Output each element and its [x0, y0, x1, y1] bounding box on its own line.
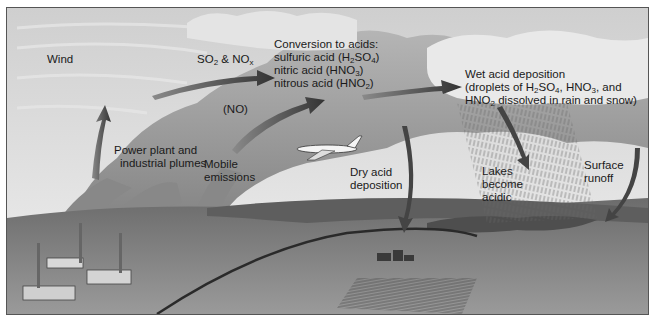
- label-so2-nox: SO2 & NOx: [197, 53, 253, 66]
- farm-field: [337, 278, 477, 314]
- acid-deposition-diagram: Wind SO2 & NOx Conversion to acids: sulf…: [6, 7, 649, 315]
- label-wind: Wind: [47, 53, 73, 66]
- label-power-plant: Power plant and industrial plumes: [114, 144, 206, 170]
- label-surface-runoff: Surface runoff: [584, 159, 624, 185]
- label-lakes-acidic: Lakes become acidic: [482, 165, 523, 204]
- label-no: (NO): [223, 103, 248, 116]
- label-dry-deposition: Dry acid deposition: [350, 166, 402, 192]
- label-wet-deposition: Wet acid deposition (droplets of H2SO4, …: [465, 68, 637, 107]
- label-conversion: Conversion to acids: sulfuric acid (H2SO…: [274, 38, 379, 90]
- label-mobile-emissions: Mobile emissions: [204, 158, 255, 184]
